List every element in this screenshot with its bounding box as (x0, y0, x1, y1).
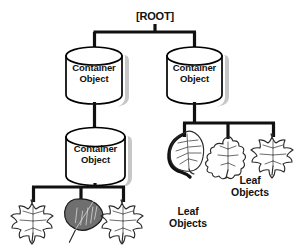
leaf-maple-right-icon (251, 134, 293, 178)
hierarchy-diagram: .conn { stroke: #111111; stroke-width: 3… (0, 0, 300, 248)
container-top-left-shape (66, 47, 129, 107)
diagram-canvas: .conn { stroke: #111111; stroke-width: 3… (0, 0, 300, 248)
leaf-maple-mid-icon (101, 200, 143, 244)
container-mid-left-shape (66, 128, 132, 189)
root-connector-group (94, 24, 197, 49)
right-leaf-connector-group (183, 102, 275, 139)
leaf-maple-left-icon (11, 200, 53, 244)
container-top-right-shape (167, 47, 229, 107)
leaf-birch-dark-icon (55, 191, 108, 242)
leaf-oak-icon (206, 137, 246, 179)
leaf-aspen-dark-icon (169, 131, 204, 177)
